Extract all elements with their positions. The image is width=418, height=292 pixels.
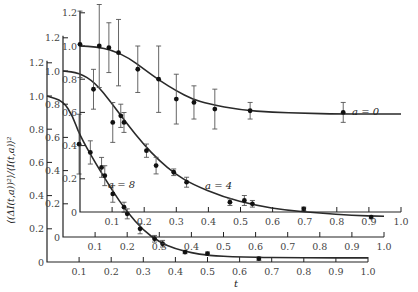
x-tick-label: 0.1 [88, 241, 103, 252]
data-point [205, 251, 210, 256]
x-tick-label: 0.3 [169, 216, 184, 227]
fit-curve [80, 46, 401, 114]
data-point [154, 163, 159, 168]
data-point [144, 148, 149, 153]
data-point [212, 107, 217, 112]
x-tick-label: 0.8 [296, 266, 311, 277]
x-tick-label: 0.7 [297, 216, 312, 227]
y-tick-label: 1.0 [45, 66, 60, 77]
x-tick-label: 0.5 [233, 216, 248, 227]
x-tick-label: 1.0 [360, 266, 375, 277]
data-point [156, 77, 161, 82]
x-tick-label: 1.0 [376, 241, 391, 252]
x-tick-label: 0.6 [265, 216, 280, 227]
x-tick-label: 0.8 [312, 241, 327, 252]
data-point [228, 200, 233, 205]
y-tick-label: 0.4 [29, 190, 44, 201]
data-point [118, 113, 123, 118]
y-tick-label: 1.2 [29, 57, 44, 68]
data-point [97, 44, 102, 49]
x-tick-label: 0.6 [248, 241, 263, 252]
x-tick-label: 1.0 [393, 216, 408, 227]
data-point [184, 180, 189, 185]
data-point [110, 192, 115, 197]
x-tick-label: 0.2 [120, 241, 135, 252]
data-point [91, 87, 96, 92]
x-tick-label: 0.4 [184, 241, 199, 252]
data-point [256, 256, 261, 261]
y-tick-label: 0.2 [45, 198, 60, 209]
data-point [122, 120, 127, 125]
y-tick-label: 0.2 [62, 173, 77, 184]
y-tick-label: 0.8 [29, 124, 44, 135]
axis-lines [63, 36, 384, 237]
y-tick-label: 0.2 [29, 223, 44, 234]
x-tick-label: 0.3 [136, 266, 151, 277]
series-label-a0: a = 0 [352, 106, 380, 117]
y-tick-label: 0.4 [45, 165, 60, 176]
data-point [135, 67, 140, 72]
x-tick-label: 0.7 [264, 266, 279, 277]
x-tick-label: 0.5 [200, 266, 215, 277]
x-tick-label: 0.5 [216, 241, 231, 252]
y-axis-label: ⟨(ΔI(t,a))²⟩/⟨I(t,a)⟩² [5, 136, 16, 223]
x-tick-label: 0.4 [168, 266, 183, 277]
y-tick-label: 0 [54, 232, 60, 243]
x-tick-label: 0.9 [361, 216, 376, 227]
x-tick-label: 0.9 [328, 266, 343, 277]
x-tick-label: 0.1 [105, 216, 120, 227]
series-label-a4: a = 4 [205, 180, 232, 191]
data-point [88, 150, 93, 155]
staggered-scatter-chart: 00.20.40.60.81.01.20.10.20.30.40.50.60.7… [0, 0, 418, 292]
series-label-a8: a = 8 [108, 179, 135, 190]
data-point [138, 226, 143, 231]
data-point [248, 108, 253, 113]
x-tick-label: 0.2 [137, 216, 152, 227]
y-tick-label: 0.8 [45, 99, 60, 110]
data-point [301, 206, 306, 211]
x-tick-label: 0.6 [232, 266, 247, 277]
y-tick-label: 0 [71, 207, 77, 218]
y-tick-label: 0.8 [62, 74, 77, 85]
y-tick-label: 0.6 [45, 132, 60, 143]
chart-panels: 00.20.40.60.81.01.20.10.20.30.40.50.60.7… [29, 5, 409, 278]
y-tick-label: 0.6 [29, 157, 44, 168]
x-axis-label: t [234, 278, 239, 289]
x-tick-label: 0.4 [201, 216, 216, 227]
data-point [250, 201, 255, 206]
data-point [341, 110, 346, 115]
y-tick-label: 1.0 [62, 41, 77, 52]
data-point [78, 42, 83, 47]
x-tick-label: 0.9 [344, 241, 359, 252]
data-point [116, 50, 121, 55]
x-tick-label: 0.1 [72, 266, 87, 277]
x-tick-label: 0.2 [104, 266, 119, 277]
x-tick-label: 0.8 [329, 216, 344, 227]
y-tick-label: 1.0 [29, 91, 44, 102]
data-point [110, 120, 115, 125]
data-point [242, 198, 247, 203]
data-point [102, 173, 107, 178]
data-point [174, 97, 179, 102]
data-point [192, 100, 197, 105]
data-point [171, 170, 176, 175]
x-tick-label: 0.3 [152, 241, 167, 252]
y-tick-label: 0 [38, 257, 44, 268]
data-point [106, 45, 111, 50]
y-tick-label: 0.6 [62, 107, 77, 118]
y-tick-label: 1.2 [45, 32, 60, 43]
y-tick-label: 1.2 [62, 7, 77, 18]
x-tick-label: 0.7 [280, 241, 295, 252]
y-tick-label: 0.4 [62, 140, 77, 151]
